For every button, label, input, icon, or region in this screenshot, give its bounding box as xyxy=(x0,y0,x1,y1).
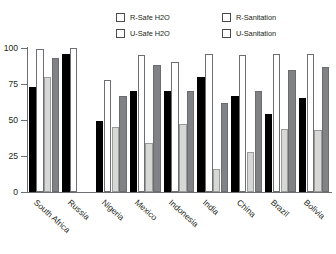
legend-swatch-r-sanitation xyxy=(222,13,231,22)
bar-u-sanitation xyxy=(119,96,126,192)
bar-r-safe-h2o xyxy=(299,98,306,192)
bar-r-safe-h2o xyxy=(29,87,36,192)
bar-u-safe-h2o xyxy=(171,62,178,192)
bar-r-sanitation xyxy=(145,143,152,192)
legend-item-u-safe-h2o: U-Safe H2O xyxy=(116,25,208,41)
bar-r-safe-h2o xyxy=(164,91,171,192)
bar-r-sanitation xyxy=(281,129,288,192)
bar-r-safe-h2o xyxy=(62,54,69,192)
bar-u-safe-h2o xyxy=(205,54,212,192)
legend-swatch-u-sanitation xyxy=(222,29,231,38)
bar-r-sanitation xyxy=(112,127,119,192)
bar-u-sanitation xyxy=(52,58,59,192)
bar-r-sanitation xyxy=(213,169,220,192)
bar-u-sanitation xyxy=(288,70,295,192)
bar-u-safe-h2o xyxy=(273,54,280,192)
bar-u-sanitation xyxy=(153,65,160,192)
y-axis-tick-mark xyxy=(21,156,27,157)
legend-swatch-u-safe-h2o xyxy=(116,29,125,38)
legend-label-r-safe-h2o: R-Safe H2O xyxy=(130,13,170,22)
bar-r-safe-h2o xyxy=(231,96,238,192)
bar-r-safe-h2o xyxy=(265,114,272,192)
x-axis-labels: South AfricaRussiaNigeriaMexicoIndonesia… xyxy=(0,194,336,254)
y-axis-tick-label: 50 xyxy=(8,116,18,125)
chart-legend: R-Safe H2O U-Safe H2O R-Sanitation U-San… xyxy=(116,9,326,41)
bar-u-safe-h2o xyxy=(70,48,77,192)
bar-chart-plot-area: 1007550250 South AfricaRussiaNigeriaMexi… xyxy=(0,44,336,254)
legend-label-u-sanitation: U-Sanitation xyxy=(236,29,276,38)
bar-u-sanitation xyxy=(187,91,194,192)
bar-r-sanitation xyxy=(179,124,186,192)
legend-label-r-sanitation: R-Sanitation xyxy=(236,13,276,22)
x-axis-label-china: China xyxy=(235,198,257,219)
bar-u-safe-h2o xyxy=(307,54,314,192)
legend-item-r-safe-h2o: R-Safe H2O xyxy=(116,9,208,25)
y-axis-tick-label: 100 xyxy=(4,44,18,53)
y-axis-tick-mark xyxy=(21,120,27,121)
x-axis-line xyxy=(27,192,332,193)
bar-r-safe-h2o xyxy=(96,121,103,192)
legend-swatch-r-safe-h2o xyxy=(116,13,125,22)
y-axis-tick-mark xyxy=(21,48,27,49)
legend-label-u-safe-h2o: U-Safe H2O xyxy=(130,29,170,38)
legend-item-u-sanitation: U-Sanitation xyxy=(222,25,314,41)
bar-u-sanitation xyxy=(221,103,228,192)
bar-r-safe-h2o xyxy=(130,91,137,192)
y-axis-tick-label: 75 xyxy=(8,80,18,89)
bar-series-container xyxy=(28,44,332,192)
bar-u-safe-h2o xyxy=(36,49,43,192)
bar-u-sanitation xyxy=(322,67,329,192)
x-axis-label-russia: Russia xyxy=(66,198,91,222)
x-axis-label-bolivia: Bolivia xyxy=(302,198,326,221)
y-axis-tick-mark xyxy=(21,192,27,193)
bar-u-sanitation xyxy=(255,91,262,192)
bar-r-sanitation xyxy=(44,77,51,192)
bar-r-safe-h2o xyxy=(197,77,204,192)
y-axis-tick-label: 25 xyxy=(8,152,18,161)
bar-u-safe-h2o xyxy=(239,55,246,192)
y-axis-tick-mark xyxy=(21,84,27,85)
x-axis-label-brazil: Brazil xyxy=(269,198,291,219)
x-axis-label-india: India xyxy=(201,198,221,217)
bar-u-safe-h2o xyxy=(104,80,111,192)
x-axis-label-mexico: Mexico xyxy=(133,198,159,222)
bar-u-safe-h2o xyxy=(138,55,145,192)
bar-r-sanitation xyxy=(247,152,254,192)
bar-r-sanitation xyxy=(314,130,321,192)
x-axis-label-indonesia: Indonesia xyxy=(167,198,200,229)
legend-item-r-sanitation: R-Sanitation xyxy=(222,9,314,25)
x-axis-label-nigeria: Nigeria xyxy=(100,198,126,222)
